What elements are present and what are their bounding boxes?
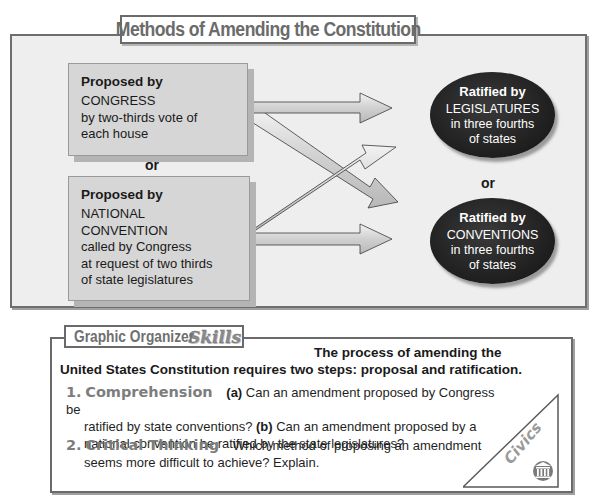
question-part-marker: (a) xyxy=(226,385,242,400)
proposal-line: NATIONAL xyxy=(81,206,237,223)
question-number: 2. xyxy=(66,437,82,453)
ratification-line: in three fourths xyxy=(451,117,534,132)
ratification-line: in three fourths xyxy=(451,243,534,258)
ratification-ellipse-conventions: Ratified by CONVENTIONS in three fourths… xyxy=(430,198,555,284)
ratification-line: of states xyxy=(469,258,516,273)
question-text: seems more difficult to achieve? Explain… xyxy=(66,454,506,471)
proposal-line: of state legislatures xyxy=(81,272,237,289)
capitol-columns-icon xyxy=(533,461,553,481)
diagram-title: Methods of Amending the Constitution xyxy=(116,18,421,41)
proposal-or-separator: or xyxy=(145,157,159,173)
proposal-box-national-convention: Proposed by NATIONAL CONVENTION called b… xyxy=(68,176,250,301)
graphic-organizer-title-box: Graphic Organizer Skills xyxy=(64,325,244,348)
civics-tab: Civics xyxy=(463,393,563,493)
ratification-ellipse-legislatures: Ratified by LEGISLATURES in three fourth… xyxy=(430,72,555,158)
proposal-line: by two-thirds vote of xyxy=(81,110,235,127)
question-text: Which method of proposing an amendment xyxy=(233,438,482,453)
question-text: ratified by state conventions? xyxy=(84,419,256,434)
graphic-organizer-title: Graphic Organizer xyxy=(74,328,175,346)
ratification-line: CONVENTIONS xyxy=(447,228,539,243)
question-part-marker: (b) xyxy=(256,419,273,434)
question-text: Can an amendment proposed by a xyxy=(273,419,477,434)
proposal-header: Proposed by xyxy=(81,74,235,89)
proposal-line: each house xyxy=(81,126,235,143)
diagram-title-box: Methods of Amending the Constitution xyxy=(120,15,416,44)
proposal-header: Proposed by xyxy=(81,187,237,202)
proposal-box-congress: Proposed by CONGRESS by two-thirds vote … xyxy=(68,63,248,156)
question-number: 1. xyxy=(66,384,82,400)
ratification-or-separator: or xyxy=(481,175,495,191)
proposal-line: at request of two thirds xyxy=(81,256,237,273)
question-label: Comprehension xyxy=(85,384,212,400)
proposal-line: CONGRESS xyxy=(81,93,235,110)
graphic-organizer-skills-label: Skills xyxy=(188,327,241,347)
ratification-line: of states xyxy=(469,132,516,147)
proposal-line: CONVENTION xyxy=(81,223,237,240)
ratification-header: Ratified by xyxy=(459,84,525,99)
arrow-convention-to-conventions xyxy=(250,224,392,254)
question-critical-thinking: 2. Critical Thinking Which method of pro… xyxy=(66,437,506,471)
organizer-intro-line-1: The process of amending the xyxy=(314,345,502,360)
question-label: Critical Thinking xyxy=(85,437,219,453)
ratification-line: LEGISLATURES xyxy=(446,102,540,117)
ratification-header: Ratified by xyxy=(459,210,525,225)
organizer-intro-line-2: United States Constitution requires two … xyxy=(60,362,522,377)
proposal-line: called by Congress xyxy=(81,239,237,256)
